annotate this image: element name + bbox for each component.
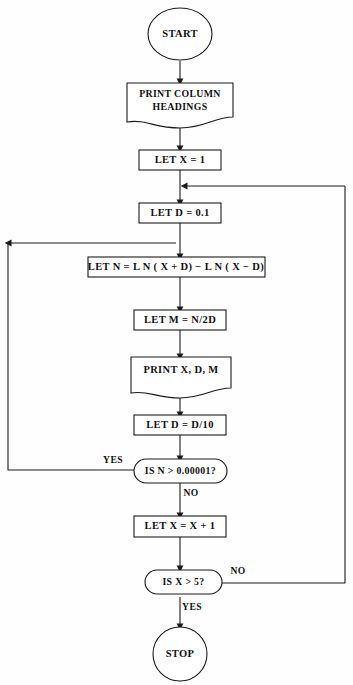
- branch-label-decision-n-yes: YES: [103, 454, 123, 465]
- node-print-headings-label-line1: PRINT COLUMN: [139, 88, 221, 99]
- node-decision-n-label: IS N > 0.00001?: [145, 465, 216, 476]
- node-print-xdm[interactable]: [131, 357, 231, 398]
- node-start-label: START: [162, 28, 198, 39]
- node-print-xdm-label: PRINT X, D, M: [143, 364, 218, 375]
- flowchart-canvas: START PRINT COLUMN HEADINGS LET X = 1 LE…: [0, 0, 353, 685]
- branch-label-decision-x-no: NO: [230, 565, 245, 576]
- node-decision-x-label: IS X > 5?: [162, 576, 204, 587]
- node-let-d-01-label: LET D = 0.1: [150, 207, 209, 218]
- node-stop-label: STOP: [166, 648, 195, 659]
- node-let-x-1-label: LET X = 1: [155, 154, 206, 165]
- node-let-x-inc-label: LET X = X + 1: [145, 520, 216, 531]
- flowchart-svg: START PRINT COLUMN HEADINGS LET X = 1 LE…: [0, 0, 353, 685]
- edge-decision-x-no-loop: [222, 186, 345, 583]
- node-let-d-div10-label: LET D = D/10: [146, 419, 213, 430]
- node-let-n-label: LET N = L N ( X + D) − L N ( X − D): [88, 261, 264, 273]
- branch-label-decision-x-yes: YES: [182, 601, 202, 612]
- branch-label-decision-n-no: NO: [183, 487, 198, 498]
- node-print-headings-label-line2: HEADINGS: [152, 101, 207, 112]
- node-let-m-label: LET M = N/2D: [144, 314, 216, 325]
